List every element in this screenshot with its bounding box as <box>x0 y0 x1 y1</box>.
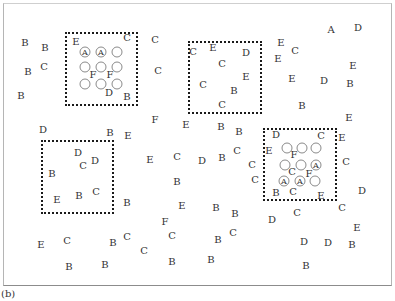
letter-label: B <box>348 240 355 250</box>
letter-label: C <box>248 160 256 170</box>
letter-label: C <box>189 47 197 57</box>
letter-label: B <box>123 92 130 102</box>
letter-label: C <box>40 62 48 72</box>
letter-label: C <box>154 66 162 76</box>
letter-label: D <box>91 156 99 166</box>
letter-label: F <box>291 150 298 160</box>
letter-label: E <box>317 191 324 201</box>
letter-label: B <box>217 122 224 132</box>
letter-label: E <box>209 43 216 53</box>
letter-label: C <box>168 231 176 241</box>
letter-label: B <box>21 38 28 48</box>
letter-label: E <box>265 146 272 156</box>
empty-circle <box>80 79 91 90</box>
letter-label: D <box>268 215 276 225</box>
letter-label: B <box>231 209 238 219</box>
letter-label: D <box>324 238 332 248</box>
letter-label: C <box>140 246 148 256</box>
letter-label: C <box>229 228 237 238</box>
empty-circle <box>96 62 107 73</box>
letter-label: B <box>65 262 72 272</box>
letter-label: E <box>37 240 44 250</box>
letter-label: B <box>346 79 353 89</box>
letter-label: C <box>218 100 226 110</box>
empty-circle <box>112 47 123 58</box>
labeled-circle: A <box>96 47 107 58</box>
letter-label: B <box>106 128 113 138</box>
letter-label: C <box>289 187 297 197</box>
empty-circle <box>311 143 322 154</box>
letter-label: B <box>168 257 175 267</box>
letter-label: B <box>101 260 108 270</box>
letter-label: E <box>345 113 352 123</box>
letter-label: F <box>152 115 159 125</box>
letter-label: D <box>105 88 113 98</box>
letter-label: B <box>235 127 242 137</box>
letter-label: E <box>349 61 356 71</box>
letter-label: D <box>74 148 82 158</box>
letter-label: C <box>123 232 131 242</box>
letter-label: B <box>218 153 225 163</box>
letter-label: C <box>342 157 350 167</box>
labeled-circle: A <box>295 176 306 187</box>
letter-label: C <box>151 35 159 45</box>
letter-label: E <box>277 38 284 48</box>
letter-label: E <box>353 223 360 233</box>
letter-label: C <box>199 80 207 90</box>
letter-label: C <box>173 152 181 162</box>
letter-label: B <box>75 191 82 201</box>
letter-label: B <box>212 203 219 213</box>
labeled-circle: A <box>279 176 290 187</box>
letter-label: B <box>123 198 130 208</box>
letter-label: B <box>173 177 180 187</box>
letter-label: C <box>288 167 296 177</box>
letter-label: E <box>178 201 185 211</box>
letter-label: E <box>124 131 131 141</box>
letter-label: F <box>90 70 97 80</box>
letter-label: E <box>242 72 249 82</box>
letter-label: F <box>306 169 313 179</box>
letter-label: D <box>39 125 47 135</box>
letter-label: E <box>146 155 153 165</box>
letter-label: C <box>79 161 87 171</box>
letter-label: B <box>109 238 116 248</box>
letter-label: B <box>302 261 309 271</box>
labeled-circle: A <box>80 47 91 58</box>
letter-label: C <box>233 146 241 156</box>
letter-label: E <box>72 37 79 47</box>
letter-label: F <box>162 217 169 227</box>
letter-label: B <box>230 86 237 96</box>
letter-label: E <box>53 195 60 205</box>
letter-label: B <box>272 188 279 198</box>
figure-caption: (b) <box>1 288 15 299</box>
letter-label: D <box>358 186 366 196</box>
letter-label: E <box>182 120 189 130</box>
letter-label: D <box>300 237 308 247</box>
letter-label: F <box>107 70 114 80</box>
empty-circle <box>112 79 123 90</box>
letter-label: D <box>242 48 250 58</box>
letter-label: C <box>251 175 259 185</box>
letter-label: D <box>198 156 206 166</box>
letter-label: B <box>214 235 221 245</box>
letter-label: C <box>291 46 299 56</box>
letter-label: C <box>293 208 301 218</box>
letter-label: C <box>218 59 226 69</box>
letter-label: C <box>92 187 100 197</box>
letter-label: D <box>320 76 328 86</box>
letter-label: C <box>123 33 131 43</box>
empty-circle <box>297 143 308 154</box>
letter-label: C <box>338 203 346 213</box>
letter-label: B <box>24 67 31 77</box>
letter-label: E <box>288 74 295 84</box>
letter-label: E <box>274 54 281 64</box>
letter-label: C <box>317 131 325 141</box>
letter-label: D <box>272 130 280 140</box>
letter-label: B <box>41 43 48 53</box>
letter-label: C <box>63 236 71 246</box>
letter-label: D <box>354 23 362 33</box>
letter-label: A <box>327 25 334 35</box>
letter-label: E <box>338 133 345 143</box>
letter-label: B <box>207 255 214 265</box>
letter-label: B <box>17 91 24 101</box>
